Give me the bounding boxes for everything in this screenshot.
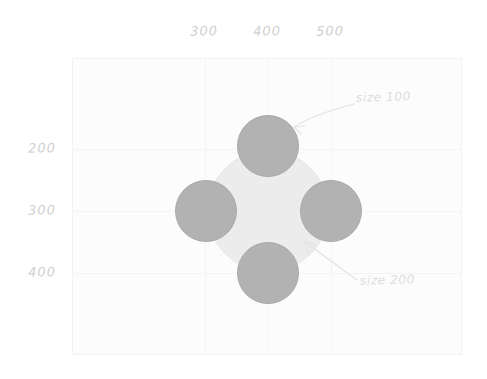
annotation-size-200: size 200 — [360, 272, 415, 287]
y-tick-label-300: 300 — [28, 202, 56, 218]
scatter-marker-size-100-right — [300, 180, 362, 242]
scatter-marker-size-100-top — [237, 115, 299, 177]
x-tick-label-400: 400 — [253, 23, 281, 39]
scatter-marker-size-100-left — [175, 180, 237, 242]
scatter-marker-size-100-bottom — [237, 242, 299, 304]
y-tick-label-400: 400 — [28, 264, 56, 280]
matplotlib-figure: 300 400 500 200 300 400 size 100 size 20… — [0, 0, 487, 379]
annotation-size-100: size 100 — [356, 89, 411, 104]
x-tick-label-300: 300 — [190, 23, 218, 39]
x-tick-label-500: 500 — [316, 23, 344, 39]
y-tick-label-200: 200 — [28, 140, 56, 156]
